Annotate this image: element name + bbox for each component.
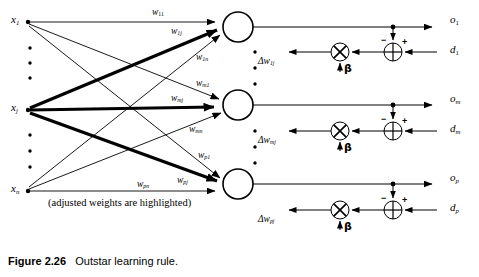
beta-label-p: β <box>344 221 352 232</box>
weight-label-w11: w11 <box>152 8 164 18</box>
minus-sign-p: − <box>381 194 386 203</box>
beta-label-1: β <box>344 63 352 74</box>
input-node-xj <box>26 108 30 112</box>
plus-sign-1: + <box>402 38 407 47</box>
neuron-p <box>223 169 253 199</box>
output-label-o1: o1 <box>450 14 459 26</box>
weight-label-wm1: wm1 <box>196 79 210 89</box>
neuron-1 <box>223 12 253 42</box>
plus-sign-p: + <box>402 196 407 205</box>
highlighted-weights-note: (adjusted weights are highlighted) <box>48 198 191 209</box>
input-label-xj: xj <box>11 102 18 114</box>
figure-container: x1 xj xn w11 w1j w1n wm1 wmj wmn wp1 wpj… <box>0 0 479 277</box>
connection-x1-neuronp <box>29 26 220 178</box>
weight-label-wpj: wpj <box>177 176 188 186</box>
delta-weight-label-pj: Δwpj <box>258 215 275 225</box>
output-label-op: op <box>450 172 459 184</box>
output-label-om: om <box>450 93 460 105</box>
weight-label-w1j: w1j <box>171 27 182 37</box>
connections-from-x1 <box>29 22 220 178</box>
connection-x1-neuronm <box>29 24 219 99</box>
desired-label-d1: d1 <box>450 44 459 56</box>
minus-sign-m: − <box>381 115 386 124</box>
weight-label-w1n: w1n <box>196 53 208 63</box>
figure-title: Outstar learning rule. <box>75 255 178 267</box>
weight-label-wmn: wmn <box>189 125 203 135</box>
connections-from-xn <box>29 35 221 191</box>
input-label-x1: x1 <box>11 14 19 26</box>
connection-xj-neuron1-bold <box>30 30 217 108</box>
beta-label-m: β <box>344 142 352 153</box>
connections-from-xj-highlighted <box>30 30 217 181</box>
plus-sign-m: + <box>402 117 407 126</box>
minus-sign-1: − <box>381 36 386 45</box>
figure-caption: Figure 2.26 Outstar learning rule. <box>8 255 178 267</box>
desired-label-dp: dp <box>450 202 459 214</box>
neuron-ellipsis-dots <box>253 50 256 164</box>
figure-number: Figure 2.26 <box>8 255 66 267</box>
neuron-layer <box>223 12 253 199</box>
weight-label-wmj: wmj <box>171 94 183 104</box>
desired-label-dm: dm <box>450 123 460 135</box>
delta-weight-label-1j: Δw1j <box>258 57 275 67</box>
weight-label-wpn: wpn <box>137 180 149 190</box>
weight-label-wp1: wp1 <box>198 151 210 161</box>
connection-xj-neuronm-bold <box>30 107 214 110</box>
neuron-m <box>223 90 253 120</box>
delta-weight-label-mj: Δwmj <box>258 136 276 146</box>
input-label-xn: xn <box>11 183 19 195</box>
